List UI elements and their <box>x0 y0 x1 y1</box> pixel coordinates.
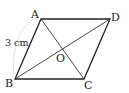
center-label-o: O <box>56 52 65 65</box>
side-length-label: 3 cm <box>5 37 28 48</box>
vertex-label-c: C <box>84 79 92 92</box>
vertex-label-b: B <box>5 77 13 90</box>
vertex-label-d: D <box>111 11 120 24</box>
diagonal-BD <box>15 19 110 79</box>
rhombus-diagram: A D B C O 3 cm <box>0 0 129 93</box>
vertex-label-a: A <box>30 8 40 21</box>
